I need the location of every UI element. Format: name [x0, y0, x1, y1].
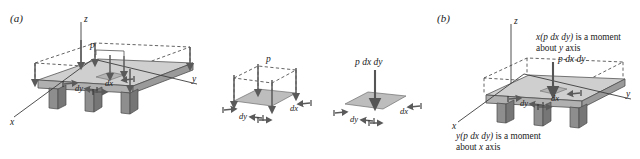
panel-b-x-label: x [451, 121, 457, 131]
sub-middle-base [234, 89, 296, 106]
moment-bottom-math: y(p dx dy) [455, 131, 493, 142]
panel-b-moment-note-top: x(p dx dy) is a moment about y axis [535, 32, 621, 53]
moment-top-axis-text: axis [563, 43, 581, 53]
panel-a-x-label: x [9, 117, 15, 127]
moment-top-math: x(p dx dy) [535, 32, 573, 43]
svg-text:x(p dx dy) is a moment: x(p dx dy) is a moment [535, 32, 621, 43]
moment-bottom-text: is a moment [493, 131, 541, 141]
sub-middle-dx-label: dx [290, 103, 298, 113]
panel-b-dy-label: dy [520, 98, 528, 108]
moment-top-text: is a moment [573, 32, 621, 42]
panel-b-moment-note-bottom: y(p dx dy) is a moment about x axis [455, 131, 541, 152]
moment-bottom-about: about [456, 142, 479, 152]
panel-b-z-label: z [513, 16, 518, 26]
sub-right-force-label: p dx dy [354, 57, 383, 67]
panel-b-y-label: y [625, 89, 631, 99]
panel-b: (b) z [437, 12, 631, 152]
panel-b-dx-label: dx [551, 93, 559, 103]
pressure-plate-figure: (a) z [0, 0, 640, 159]
panel-a-label: (a) [10, 12, 23, 25]
svg-text:about y axis: about y axis [536, 43, 581, 53]
moment-bottom-axis-text: axis [483, 142, 501, 152]
panel-a-pressure-label: p [89, 40, 95, 50]
panel-a-dy-label: dy [75, 83, 83, 93]
sub-diagram-middle: p dy dx [223, 54, 311, 123]
panel-b-force-label: p dx dy [557, 54, 586, 64]
panel-a-y-label: y [191, 74, 197, 84]
sub-right-dx-label: dx [400, 106, 408, 116]
panel-a: (a) z [9, 12, 197, 127]
panel-b-label: (b) [437, 12, 450, 25]
panel-a-z-label: z [83, 14, 88, 24]
sub-middle-dy-label: dy [239, 111, 247, 121]
panel-a-z-axis: z [81, 14, 88, 70]
figure-container: (a) z [0, 0, 640, 159]
panel-b-plate [486, 75, 625, 108]
sub-diagram-right: p dx dy dy dx [334, 57, 421, 126]
panel-a-dx-label: dx [105, 78, 113, 88]
sub-middle-pressure-label: p [265, 54, 271, 64]
sub-right-dy-label: dy [350, 114, 358, 124]
svg-text:about x axis: about x axis [456, 142, 501, 152]
moment-top-about: about [536, 43, 559, 53]
panel-b-z-axis: z [511, 16, 518, 85]
svg-text:y(p dx dy) is a moment: y(p dx dy) is a moment [455, 131, 541, 142]
